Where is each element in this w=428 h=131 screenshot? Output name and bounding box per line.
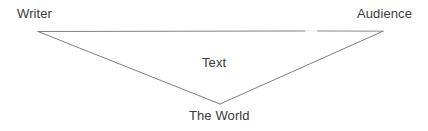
edge-audience-world xyxy=(220,31,383,104)
node-label-text: Text xyxy=(202,56,226,70)
edge-writer-audience xyxy=(38,31,383,32)
edge-writer-world xyxy=(38,32,220,105)
rhetorical-triangle-diagram: Writer Audience Text The World xyxy=(0,0,428,131)
node-label-the-world: The World xyxy=(189,109,250,123)
node-label-audience: Audience xyxy=(357,7,412,21)
edge-writer-audience-segment-left xyxy=(38,31,305,32)
node-label-writer: Writer xyxy=(17,7,52,21)
